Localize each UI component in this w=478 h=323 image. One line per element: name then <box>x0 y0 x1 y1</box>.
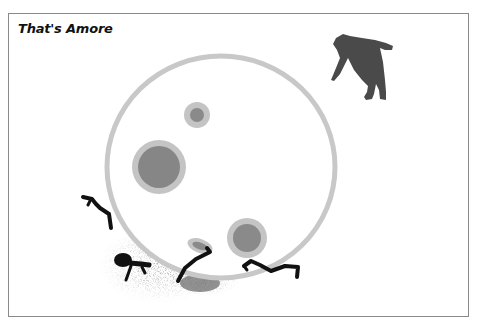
cartoon-scene <box>0 0 478 323</box>
figure-arm-left <box>83 197 111 228</box>
bear-silhouette-icon <box>331 34 393 100</box>
crater-right <box>227 218 267 258</box>
crater-small-top <box>184 102 210 128</box>
crater-large-left <box>132 140 186 194</box>
